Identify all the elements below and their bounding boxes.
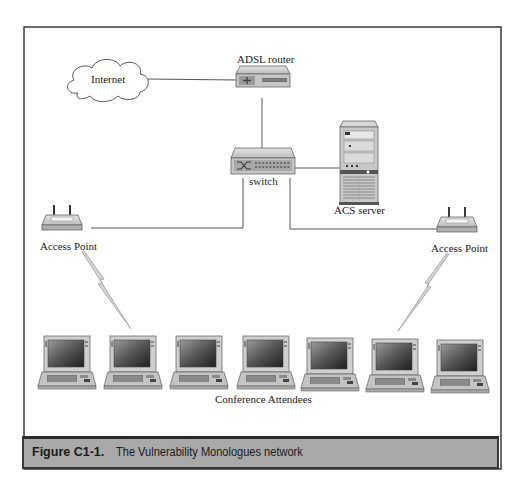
link-switch-ap-left bbox=[91, 178, 243, 228]
wireless-link-right-icon bbox=[398, 253, 449, 331]
figure-caption: Figure C1-1. The Vulnerability Monologue… bbox=[22, 436, 499, 469]
laptop-icon bbox=[431, 340, 489, 393]
laptop-icon bbox=[301, 338, 359, 391]
access-point-right-icon bbox=[437, 207, 477, 232]
wireless-link-left-icon bbox=[82, 251, 131, 329]
internet-label: Internet bbox=[91, 73, 125, 85]
server-tower-icon bbox=[339, 121, 379, 205]
laptop-icon bbox=[104, 336, 162, 389]
attendees-label: Conference Attendees bbox=[215, 393, 312, 405]
access-point-left-icon bbox=[42, 205, 82, 230]
laptop-icon bbox=[366, 339, 424, 392]
switch-icon bbox=[231, 148, 295, 174]
laptop-icon bbox=[38, 336, 96, 389]
server-label: ACS server bbox=[334, 204, 385, 216]
access-point-right-label: Access Point bbox=[431, 242, 488, 254]
figure-number: Figure C1-1. bbox=[32, 445, 104, 459]
router-icon bbox=[236, 66, 290, 87]
laptop-icon bbox=[237, 336, 295, 389]
link-internet-router bbox=[148, 79, 237, 80]
router-label: ADSL router bbox=[237, 53, 294, 65]
laptops bbox=[38, 336, 489, 393]
switch-label: switch bbox=[249, 175, 278, 187]
figure-title: The Vulnerability Monologues network bbox=[116, 445, 303, 459]
laptop-icon bbox=[170, 336, 228, 389]
access-point-left-label: Access Point bbox=[40, 240, 97, 252]
